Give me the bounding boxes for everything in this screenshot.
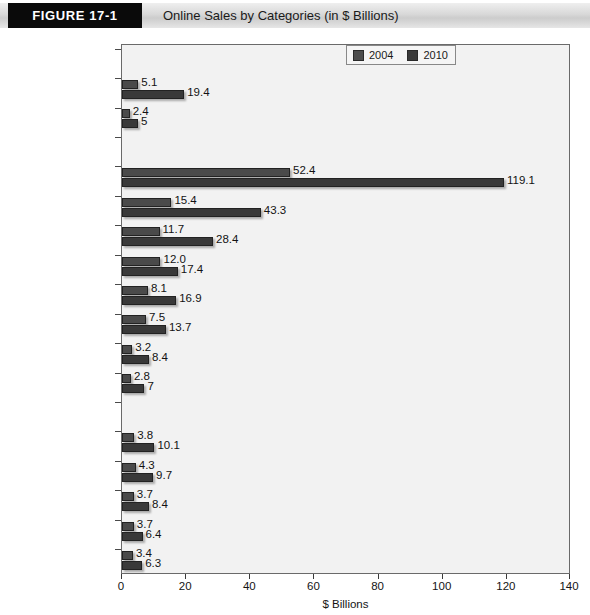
y-axis-tick xyxy=(115,314,121,315)
chart-data-row: 3.810.1 xyxy=(0,427,590,456)
chart-data-row: 11.728.4 xyxy=(0,221,590,250)
legend-item-2010: 2010 xyxy=(407,49,447,61)
bar-jewelry-luxury-goods-2010 xyxy=(122,384,144,393)
bar-value-event-tickets-2010: 9.7 xyxy=(156,469,172,481)
bar-value-flowers-cards-gifts-2010: 10.1 xyxy=(157,439,179,451)
bar-value-travel-2004: 52.4 xyxy=(293,164,315,176)
chart-data-row: 3.28.4 xyxy=(0,338,590,367)
bar-event-tickets-2010 xyxy=(122,473,153,482)
x-tick-mark-100 xyxy=(442,574,443,579)
y-axis-tick xyxy=(115,520,121,521)
bar-value-flowers-cards-gifts-2004: 3.8 xyxy=(137,429,153,441)
bar-books-2004 xyxy=(122,522,134,531)
x-tick-label-80: 80 xyxy=(371,580,384,592)
bar-sporting-goods-2010 xyxy=(122,355,149,364)
bar-value-food-beverage-2010: 19.4 xyxy=(187,86,209,98)
chart-legend: 2004 2010 xyxy=(346,45,456,65)
y-axis-tick xyxy=(115,343,121,344)
chart-data-row: 7.513.7 xyxy=(0,309,590,338)
y-axis-tick xyxy=(115,49,121,50)
legend-label-2010: 2010 xyxy=(423,49,447,61)
bar-travel-2010 xyxy=(122,178,504,187)
y-axis-tick xyxy=(115,373,121,374)
x-tick-label-20: 20 xyxy=(179,580,192,592)
x-tick-mark-60 xyxy=(313,574,314,579)
x-tick-mark-40 xyxy=(249,574,250,579)
bar-value-consumer-electronics-2010: 13.7 xyxy=(169,321,191,333)
y-axis-tick xyxy=(115,137,121,138)
bar-health-beauty-2004 xyxy=(122,109,130,118)
bar-computer-hard-software-2010 xyxy=(122,267,178,276)
legend-swatch-2004 xyxy=(353,50,364,61)
bar-automotive-parts-2010 xyxy=(122,296,176,305)
chart-data-row: 2.45 xyxy=(0,103,590,132)
chart-data-row: 3.46.3 xyxy=(0,545,590,574)
bar-food-beverage-2010 xyxy=(122,90,184,99)
x-tick-mark-140 xyxy=(569,574,570,579)
bar-apparel-2010 xyxy=(122,237,213,246)
x-tick-mark-20 xyxy=(185,574,186,579)
bar-books-2010 xyxy=(122,532,143,541)
figure-title: Online Sales by Categories (in $ Billion… xyxy=(163,3,399,28)
bar-value-music-video-2010: 8.4 xyxy=(152,498,168,510)
bar-consumer-electronics-2010 xyxy=(122,325,166,334)
legend-swatch-2010 xyxy=(407,50,418,61)
y-axis-tick xyxy=(115,108,121,109)
bar-toys-video-games-2004 xyxy=(122,551,133,560)
bar-value-automotive-parts-2010: 16.9 xyxy=(179,292,201,304)
chart-area: 2004 2010 5.119.42.4552.4119.115.443.311… xyxy=(0,36,590,615)
bar-value-travel-2010: 119.1 xyxy=(507,174,535,186)
legend-item-2004: 2004 xyxy=(353,49,393,61)
chart-data-row: 15.443.3 xyxy=(0,191,590,220)
bar-event-tickets-2004 xyxy=(122,463,136,472)
bar-music-video-2010 xyxy=(122,502,149,511)
bar-value-sporting-goods-2004: 3.2 xyxy=(135,341,151,353)
bar-value-computer-hard-software-2010: 17.4 xyxy=(181,263,203,275)
y-axis-tick xyxy=(115,549,121,550)
bar-home-products-2004 xyxy=(122,198,171,207)
bar-value-books-2010: 6.4 xyxy=(146,528,162,540)
bar-value-sporting-goods-2010: 8.4 xyxy=(152,351,168,363)
chart-data-row: 3.76.4 xyxy=(0,515,590,544)
y-axis-tick xyxy=(115,490,121,491)
y-axis-tick xyxy=(115,196,121,197)
chart-data-row: 8.116.9 xyxy=(0,280,590,309)
figure-number-tag: FIGURE 17-1 xyxy=(8,3,142,28)
y-axis-tick xyxy=(115,461,121,462)
y-axis-tick xyxy=(115,402,121,403)
bar-consumer-electronics-2004 xyxy=(122,315,146,324)
x-tick-mark-120 xyxy=(506,574,507,579)
y-axis-tick xyxy=(115,78,121,79)
x-tick-mark-0 xyxy=(121,574,122,579)
legend-label-2004: 2004 xyxy=(369,49,393,61)
bar-value-consumer-electronics-2004: 7.5 xyxy=(149,311,165,323)
chart-group-row xyxy=(0,397,590,426)
x-tick-label-140: 140 xyxy=(559,580,578,592)
bar-value-event-tickets-2004: 4.3 xyxy=(139,459,155,471)
bar-toys-video-games-2010 xyxy=(122,561,142,570)
bar-travel-2004 xyxy=(122,168,290,177)
chart-group-row xyxy=(0,132,590,161)
bar-value-apparel-2004: 11.7 xyxy=(163,223,185,235)
bar-computer-hard-software-2004 xyxy=(122,257,160,266)
y-axis-tick xyxy=(115,166,121,167)
y-axis-tick xyxy=(115,255,121,256)
bar-health-beauty-2010 xyxy=(122,119,138,128)
x-axis-title: $ Billions xyxy=(121,598,570,610)
y-axis-tick xyxy=(115,225,121,226)
bar-value-toys-video-games-2010: 6.3 xyxy=(145,557,161,569)
bar-home-products-2010 xyxy=(122,208,261,217)
x-tick-label-60: 60 xyxy=(307,580,320,592)
bar-value-music-video-2004: 3.7 xyxy=(137,488,153,500)
bar-music-video-2004 xyxy=(122,492,134,501)
x-axis: 020406080100120140 $ Billions xyxy=(121,574,570,615)
bar-value-home-products-2004: 15.4 xyxy=(174,194,196,206)
chart-data-row: 2.87 xyxy=(0,368,590,397)
bar-sporting-goods-2004 xyxy=(122,345,132,354)
x-tick-label-40: 40 xyxy=(243,580,256,592)
x-tick-label-100: 100 xyxy=(432,580,451,592)
bar-jewelry-luxury-goods-2004 xyxy=(122,374,131,383)
chart-data-row: 4.39.7 xyxy=(0,456,590,485)
bar-value-automotive-parts-2004: 8.1 xyxy=(151,282,167,294)
bar-flowers-cards-gifts-2010 xyxy=(122,443,154,452)
